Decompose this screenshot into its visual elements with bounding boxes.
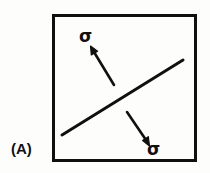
- stress-arrow-upper-left: [91, 46, 115, 85]
- panel-label: (A): [11, 139, 32, 159]
- stress-label-sigma-bottom: σ: [147, 140, 160, 158]
- figure-panel-a: σ σ (A): [0, 0, 210, 173]
- stress-label-sigma-top: σ: [79, 27, 92, 45]
- inclined-plane-line: [62, 60, 183, 135]
- rectangular-border: [54, 16, 196, 161]
